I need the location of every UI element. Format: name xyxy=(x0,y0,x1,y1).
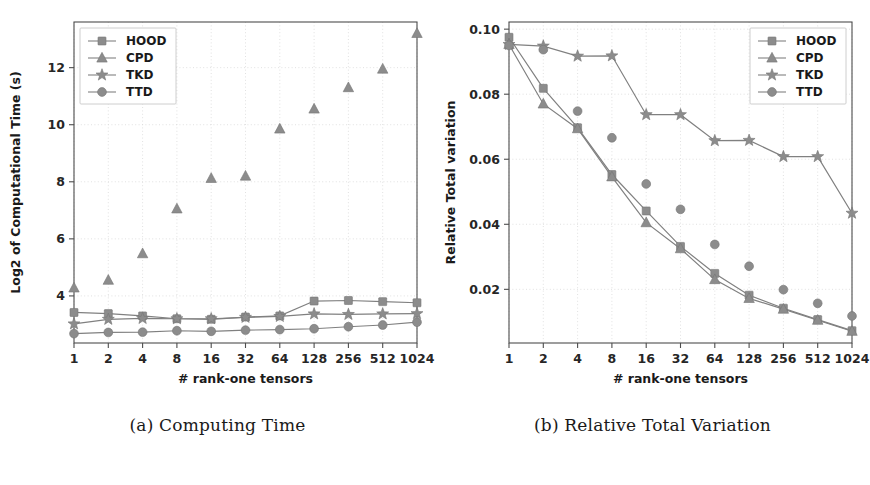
x-axis-title: # rank-one tensors xyxy=(613,371,748,386)
legend: HOODCPDTKDTTD xyxy=(80,28,176,104)
data-point-cpd xyxy=(275,123,285,133)
data-point-hood xyxy=(413,299,421,307)
data-point-cpd xyxy=(69,282,79,292)
data-point-hood xyxy=(642,207,650,215)
data-point-hood xyxy=(70,308,78,316)
panels-row: 468101212481632641282565121024# rank-one… xyxy=(0,0,870,415)
data-point-ttd xyxy=(779,285,788,294)
data-point-ttd xyxy=(70,329,79,338)
data-point-ttd xyxy=(813,299,822,308)
caption-panel-b: (b) Relative Total Variation xyxy=(435,415,870,435)
legend-marker-hood xyxy=(768,37,776,45)
data-point-ttd xyxy=(710,240,719,249)
data-point-ttd xyxy=(241,326,250,335)
x-tick-label: 16 xyxy=(637,351,655,366)
data-point-cpd xyxy=(343,82,353,92)
data-point-cpd xyxy=(206,173,216,183)
y-tick-label: 10 xyxy=(48,117,66,132)
data-point-cpd xyxy=(103,275,113,285)
panel-computing-time: 468101212481632641282565121024# rank-one… xyxy=(0,0,435,415)
data-point-ttd xyxy=(378,321,387,330)
data-point-ttd xyxy=(207,327,216,336)
data-point-hood xyxy=(539,84,547,92)
chart-relative-total-variation: 0.020.040.060.080.1012481632641282565121… xyxy=(435,0,870,415)
data-point-ttd xyxy=(745,262,754,271)
captions-row: (a) Computing Time (b) Relative Total Va… xyxy=(0,415,870,435)
x-tick-label: 1024 xyxy=(835,351,870,366)
data-point-ttd xyxy=(104,328,113,337)
data-point-tkd xyxy=(743,134,755,145)
data-point-ttd xyxy=(138,328,147,337)
data-point-ttd xyxy=(310,324,319,333)
y-tick-label: 6 xyxy=(56,231,65,246)
x-tick-label: 16 xyxy=(202,351,220,366)
data-point-tkd xyxy=(709,134,721,145)
legend-label-tkd: TKD xyxy=(796,68,823,82)
y-tick-label: 0.08 xyxy=(469,87,500,102)
x-tick-label: 1 xyxy=(505,351,514,366)
data-point-cpd xyxy=(172,203,182,213)
data-point-tkd xyxy=(606,50,618,61)
y-axis-title: Relative Total variation xyxy=(443,101,458,265)
legend-marker-ttd xyxy=(98,88,107,97)
data-point-ttd xyxy=(642,180,651,189)
legend-label-cpd: CPD xyxy=(126,51,154,65)
x-tick-label: 8 xyxy=(173,351,182,366)
y-tick-label: 0.10 xyxy=(469,22,500,37)
data-point-tkd xyxy=(377,308,389,319)
legend-label-tkd: TKD xyxy=(126,68,153,82)
caption-panel-a: (a) Computing Time xyxy=(0,415,435,435)
data-point-tkd xyxy=(777,150,789,161)
x-tick-label: 2 xyxy=(104,351,113,366)
x-tick-label: 128 xyxy=(301,351,327,366)
legend: HOODCPDTKDTTD xyxy=(750,28,846,104)
data-point-ttd xyxy=(573,107,582,116)
data-point-cpd xyxy=(538,98,548,108)
x-tick-label: 32 xyxy=(237,351,254,366)
panel-relative-total-variation: 0.020.040.060.080.1012481632641282565121… xyxy=(435,0,870,415)
data-point-ttd xyxy=(172,326,181,335)
x-tick-label: 1024 xyxy=(400,351,435,366)
legend-label-hood: HOOD xyxy=(796,34,836,48)
data-point-cpd xyxy=(240,170,250,180)
data-point-ttd xyxy=(539,45,548,54)
y-tick-label: 12 xyxy=(48,60,65,75)
data-point-cpd xyxy=(412,28,422,38)
figure-container: 468101212481632641282565121024# rank-one… xyxy=(0,0,870,485)
x-tick-label: 256 xyxy=(335,351,361,366)
data-point-cpd xyxy=(309,103,319,113)
data-point-cpd xyxy=(137,248,147,258)
x-tick-label: 64 xyxy=(271,351,289,366)
x-tick-label: 64 xyxy=(706,351,724,366)
data-point-cpd xyxy=(377,63,387,73)
legend-label-ttd: TTD xyxy=(126,85,153,99)
legend-marker-hood xyxy=(98,37,106,45)
x-tick-label: 256 xyxy=(770,351,796,366)
x-tick-label: 4 xyxy=(138,351,147,366)
legend-label-hood: HOOD xyxy=(126,34,166,48)
x-tick-label: 512 xyxy=(370,351,396,366)
data-point-tkd xyxy=(812,150,824,161)
x-axis-title: # rank-one tensors xyxy=(178,371,313,386)
data-point-ttd xyxy=(676,205,685,214)
x-tick-label: 2 xyxy=(539,351,548,366)
data-point-ttd xyxy=(275,325,284,334)
x-tick-label: 128 xyxy=(736,351,762,366)
y-tick-label: 8 xyxy=(56,174,65,189)
data-point-ttd xyxy=(413,318,422,327)
legend-label-cpd: CPD xyxy=(796,51,824,65)
y-tick-label: 0.02 xyxy=(469,282,500,297)
y-axis-title: Log2 of Computational Time (s) xyxy=(8,71,23,293)
y-tick-label: 0.04 xyxy=(469,217,500,232)
y-tick-label: 4 xyxy=(56,288,65,303)
chart-computing-time: 468101212481632641282565121024# rank-one… xyxy=(0,0,435,415)
data-point-hood xyxy=(344,296,352,304)
x-tick-label: 4 xyxy=(573,351,582,366)
data-point-ttd xyxy=(848,312,857,321)
data-point-hood xyxy=(379,298,387,306)
legend-marker-ttd xyxy=(768,88,777,97)
x-tick-label: 1 xyxy=(70,351,79,366)
data-point-ttd xyxy=(505,41,514,50)
x-tick-label: 8 xyxy=(608,351,617,366)
data-point-ttd xyxy=(607,133,616,142)
